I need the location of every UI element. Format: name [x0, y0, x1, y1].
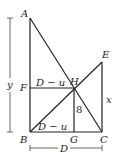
- label-F: F: [19, 82, 28, 93]
- crossed-ladders-diagram: A B C E F G H D − u D − u 8 x y D: [0, 0, 118, 160]
- label-D-dim: D: [59, 143, 68, 154]
- label-HG: 8: [76, 104, 82, 115]
- label-A: A: [20, 8, 28, 19]
- segment-AC: [30, 18, 102, 132]
- label-BG: D − u: [37, 121, 67, 132]
- label-C: C: [100, 134, 108, 145]
- label-H: H: [69, 76, 79, 87]
- label-B: B: [19, 134, 27, 145]
- label-EC: x: [106, 94, 112, 105]
- y-dimension: [7, 18, 13, 132]
- label-FH: D − u: [35, 77, 65, 88]
- label-G: G: [70, 134, 78, 145]
- label-E: E: [101, 49, 110, 60]
- label-y-dim: y: [6, 79, 13, 90]
